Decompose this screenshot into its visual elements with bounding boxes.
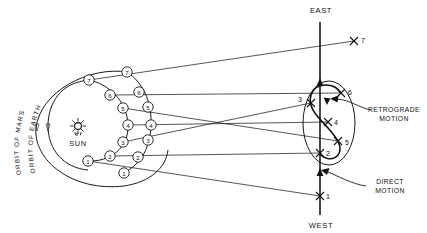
mars-node-1-label: 1: [122, 170, 126, 177]
mars-node-4-label: 4: [149, 122, 153, 129]
sky-num-6: 6: [348, 89, 352, 96]
earth-node-2-label: 2: [108, 153, 112, 160]
west-label: WEST: [309, 221, 333, 230]
diagram-canvas: ORBIT OF MARS ORBIT OF EARTH: [0, 0, 427, 233]
sky-num-2: 2: [326, 150, 330, 157]
sky-x-7: [350, 37, 358, 45]
mars-node-7: 7: [122, 67, 132, 77]
mars-node-5-label: 5: [146, 104, 150, 111]
sky-num-5: 5: [345, 139, 349, 146]
earth-node-3: 3: [118, 137, 128, 147]
earth-node-6-label: 6: [108, 92, 112, 99]
earth-node-7: 7: [84, 75, 94, 85]
retrograde-motion-diagram: ORBIT OF MARS ORBIT OF EARTH: [0, 0, 427, 233]
earth-node-1: 1: [83, 156, 93, 166]
earth-orbit-arc: [48, 80, 90, 170]
sun-label: SUN: [69, 139, 87, 148]
earth-node-4-label: 4: [126, 122, 130, 129]
mars-node-2-label: 2: [136, 154, 140, 161]
retrograde-label-line1: RETROGRADE: [368, 106, 420, 113]
mars-node-6: 6: [134, 87, 144, 97]
loop-direction-arrowhead: [324, 98, 331, 106]
orbit-of-mars-label: ORBIT OF MARS: [13, 109, 26, 176]
orbit-of-mars-textpath: ORBIT OF MARS: [13, 109, 26, 176]
retrograde-label-line2: MOTION: [379, 115, 409, 122]
direct-label-line2: MOTION: [375, 187, 405, 194]
sky-num-4: 4: [334, 119, 338, 126]
mars-node-5: 5: [143, 102, 153, 112]
mars-node-2: 2: [133, 152, 143, 162]
earth-node-3-label: 3: [121, 139, 125, 146]
mars-node-3: 3: [143, 135, 153, 145]
direct-motion-callout: DIRECT MOTION: [321, 168, 405, 194]
sky-num-1: 1: [326, 193, 330, 200]
sun-icon: [71, 119, 86, 136]
mars-node-7-label: 7: [125, 69, 129, 76]
sky-position-marks: [307, 37, 358, 200]
mars-node-6-label: 6: [137, 89, 141, 96]
retrograde-leader-arrowhead: [330, 96, 339, 103]
mars-node-1: 1: [119, 168, 129, 178]
earth-node-1-label: 1: [86, 158, 90, 165]
retrograde-motion-callout: RETROGRADE MOTION: [330, 96, 420, 123]
sky-num-3: 3: [298, 96, 302, 103]
sky-x-5: [334, 137, 342, 145]
earth-node-2: 2: [105, 151, 115, 161]
earth-node-4: 4: [123, 120, 133, 130]
earth-node-7-label: 7: [87, 77, 91, 84]
sky-axis-arrowhead-lower: [317, 168, 324, 176]
earth-node-5-label: 5: [121, 105, 125, 112]
mars-node-4: 4: [146, 120, 156, 130]
direct-leader-line: [328, 172, 366, 186]
retrograde-leader-line: [337, 99, 371, 110]
sight-line-4: [128, 122, 328, 125]
orbit-label-group: ORBIT OF MARS ORBIT OF EARTH: [13, 103, 42, 176]
earth-node-5: 5: [118, 103, 128, 113]
east-label: EAST: [310, 6, 332, 15]
sky-num-7: 7: [361, 37, 365, 44]
mars-node-3-label: 3: [146, 137, 150, 144]
earth-node-6: 6: [105, 90, 115, 100]
direct-label-line1: DIRECT: [376, 178, 404, 185]
